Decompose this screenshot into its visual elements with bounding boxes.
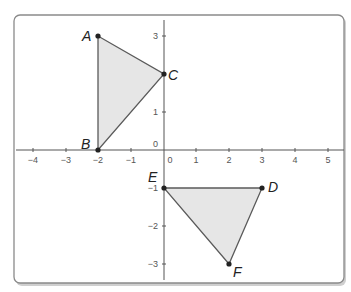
- point-d: [259, 185, 264, 190]
- x-tick-label: 1: [193, 155, 198, 165]
- y-tick-label: −3: [148, 259, 158, 269]
- x-tick-label: 5: [325, 155, 330, 165]
- point-f: [226, 261, 231, 266]
- point-e: [161, 185, 166, 190]
- x-tick-label: 2: [226, 155, 231, 165]
- coordinate-plane-figure: −4 −3 −2 −1 0 1 2 3 4 5 3 2 1 0 −1 −2 −3…: [0, 0, 351, 292]
- x-tick-label: −1: [126, 155, 136, 165]
- y-tick-label: 0: [153, 139, 158, 149]
- x-tick-label: −2: [93, 155, 103, 165]
- point-b: [95, 147, 100, 152]
- x-tick-label: −3: [61, 155, 71, 165]
- y-tick-label: 1: [153, 107, 158, 117]
- x-tick-label: 0: [167, 155, 172, 165]
- x-tick-label: 4: [292, 155, 297, 165]
- point-a: [95, 33, 100, 38]
- point-label-a: A: [81, 28, 91, 44]
- point-label-f: F: [233, 264, 243, 280]
- y-tick-label: 3: [153, 31, 158, 41]
- point-c: [161, 71, 166, 76]
- x-tick-label: −4: [28, 155, 38, 165]
- point-label-d: D: [268, 179, 278, 195]
- point-label-b: B: [81, 136, 90, 152]
- x-tick-label: 3: [259, 155, 264, 165]
- y-tick-label: −2: [148, 221, 158, 231]
- point-label-c: C: [168, 67, 179, 83]
- point-label-e: E: [148, 169, 158, 185]
